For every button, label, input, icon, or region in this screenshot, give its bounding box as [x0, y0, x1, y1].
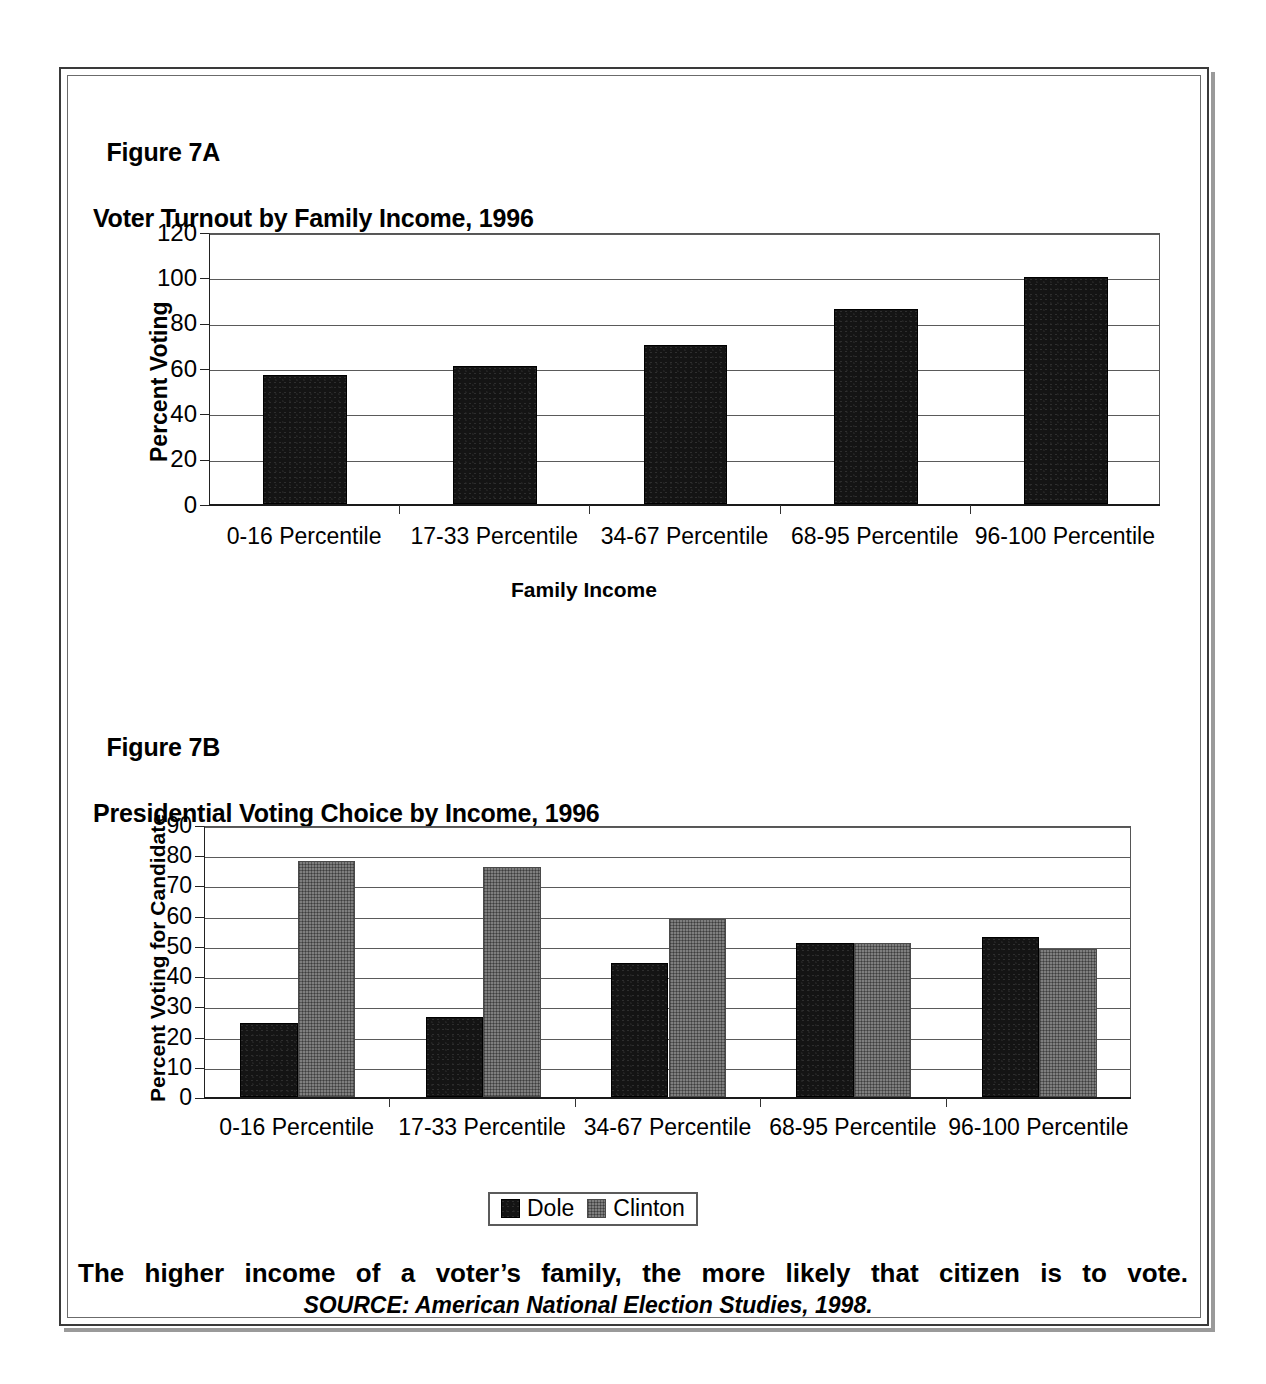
- y-axis-tick-mark: [195, 1007, 204, 1008]
- legend-swatch-dole: [501, 1199, 520, 1218]
- y-axis-tick-mark: [195, 947, 204, 948]
- legend-swatch-clinton: [587, 1199, 606, 1218]
- x-axis-tick-mark: [946, 1098, 947, 1107]
- bar-clinton-4: [854, 943, 911, 1097]
- y-axis-tick-label: 20: [132, 1026, 192, 1049]
- y-axis-tick-mark: [195, 977, 204, 978]
- y-axis-tick-label: 10: [132, 1056, 192, 1079]
- bar-dole-2: [426, 1017, 483, 1097]
- y-axis-tick-label: 50: [132, 935, 192, 958]
- y-axis-tick-label: 60: [132, 905, 192, 928]
- legend-item-clinton[interactable]: Clinton: [587, 1197, 685, 1220]
- bar-clinton-2: [483, 867, 540, 1097]
- y-axis-tick-mark: [195, 1068, 204, 1069]
- legend-label-clinton: Clinton: [613, 1197, 685, 1220]
- figure-source-note: SOURCE: American National Election Studi…: [78, 1292, 1098, 1319]
- y-axis-tick-label: 90: [132, 814, 192, 837]
- bar-clinton-3: [669, 919, 726, 1097]
- x-axis-tick-mark: [389, 1098, 390, 1107]
- y-axis-tick-label: 70: [132, 874, 192, 897]
- y-axis-tick-label: 80: [132, 844, 192, 867]
- y-axis-tick-mark: [195, 1038, 204, 1039]
- frame-shadow-bottom: [64, 1328, 1215, 1332]
- figure-caption: The higher income of a voter’s family, t…: [78, 1258, 1188, 1288]
- y-axis-tick-label: 0: [132, 1086, 192, 1109]
- gridline: [205, 827, 1130, 828]
- legend-label-dole: Dole: [527, 1197, 574, 1220]
- chart-figure-7b: Percent Voting for Candidate 01020304050…: [0, 0, 1266, 1260]
- x-axis-baseline: [204, 1097, 1131, 1099]
- bar-dole-5: [982, 937, 1039, 1097]
- bar-clinton-5: [1039, 949, 1096, 1097]
- legend-item-dole[interactable]: Dole: [501, 1197, 574, 1220]
- y-axis-tick-mark: [195, 856, 204, 857]
- y-axis-tick-mark: [195, 886, 204, 887]
- x-axis-tick-mark: [760, 1098, 761, 1107]
- y-axis-tick-label: 30: [132, 995, 192, 1018]
- chart-7b-legend: Dole Clinton: [488, 1192, 698, 1226]
- bar-dole-1: [240, 1023, 297, 1097]
- chart-7b-plot-area: [204, 826, 1131, 1098]
- x-axis-category-label: 96-100 Percentile: [926, 1114, 1151, 1140]
- y-axis-tick-mark: [195, 826, 204, 827]
- y-axis-tick-label: 40: [132, 965, 192, 988]
- bar-dole-4: [796, 943, 853, 1097]
- bar-dole-3: [611, 963, 668, 1097]
- x-axis-tick-mark: [575, 1098, 576, 1107]
- y-axis-tick-mark: [195, 917, 204, 918]
- y-axis-tick-mark: [195, 1098, 204, 1099]
- gridline: [205, 857, 1130, 858]
- bar-clinton-1: [298, 861, 355, 1097]
